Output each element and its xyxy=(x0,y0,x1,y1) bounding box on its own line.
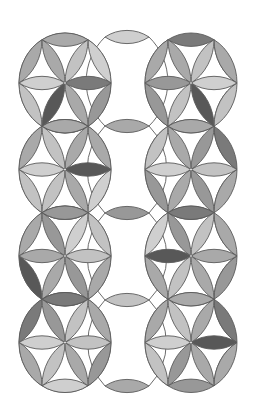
center-dot xyxy=(64,255,66,257)
center-dot xyxy=(64,168,66,170)
center-dot xyxy=(64,341,66,343)
center-dot xyxy=(64,82,66,84)
center-dot xyxy=(190,255,192,257)
center-dot xyxy=(190,341,192,343)
center-dot xyxy=(190,82,192,84)
flower-of-life-pattern xyxy=(0,0,260,409)
center-dot xyxy=(190,168,192,170)
